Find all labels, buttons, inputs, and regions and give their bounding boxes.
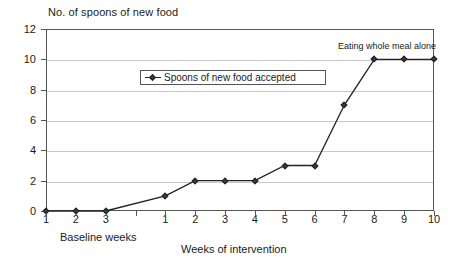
chart-title: No. of spoons of new food: [48, 6, 178, 18]
chart-legend[interactable]: Spoons of new food accepted: [140, 70, 326, 85]
plot-area: [46, 29, 434, 211]
x-tick-mark: [46, 211, 47, 216]
y-tick-mark: [41, 181, 46, 182]
y-tick-mark: [41, 59, 46, 60]
y-tick-label: 8: [30, 85, 36, 95]
x-tick-mark: [374, 211, 375, 216]
gridline: [47, 182, 433, 183]
legend-label: Spoons of new food accepted: [164, 72, 296, 83]
annotation-eating-whole-meal-alone: Eating whole meal alone: [338, 41, 436, 51]
gridline: [47, 151, 433, 152]
legend-marker-icon: [145, 74, 161, 81]
y-tick-mark: [41, 29, 46, 30]
gridline: [47, 60, 433, 61]
y-tick-mark: [41, 90, 46, 91]
x-tick-mark: [165, 211, 166, 216]
y-tick-label: 6: [30, 115, 36, 125]
x-tick-mark: [404, 211, 405, 216]
x-tick-mark: [434, 211, 435, 216]
y-tick-label: 2: [30, 176, 36, 186]
y-tick-label: 10: [24, 54, 36, 64]
y-tick-mark: [41, 120, 46, 121]
x-tick-mark: [285, 211, 286, 216]
y-tick-label: 4: [30, 145, 36, 155]
x-axis-label: Weeks of intervention: [181, 243, 287, 255]
x-tick-mark: [344, 211, 345, 216]
gridline: [47, 121, 433, 122]
chart-container: No. of spoons of new food 024681012 1231…: [0, 0, 455, 267]
x-tick-mark: [195, 211, 196, 216]
y-axis: 024681012: [0, 29, 42, 211]
x-tick-mark: [315, 211, 316, 216]
x-tick-mark: [76, 211, 77, 216]
x-tick-mark: [255, 211, 256, 216]
x-tick-mark: [225, 211, 226, 216]
gridline: [47, 91, 433, 92]
x-axis: 12312345678910: [0, 213, 455, 229]
x-tick-mark: [106, 211, 107, 216]
y-tick-mark: [41, 150, 46, 151]
baseline-axis-caption: Baseline weeks: [60, 231, 136, 243]
y-tick-label: 12: [24, 24, 36, 34]
x-tick-mark: [136, 211, 137, 216]
